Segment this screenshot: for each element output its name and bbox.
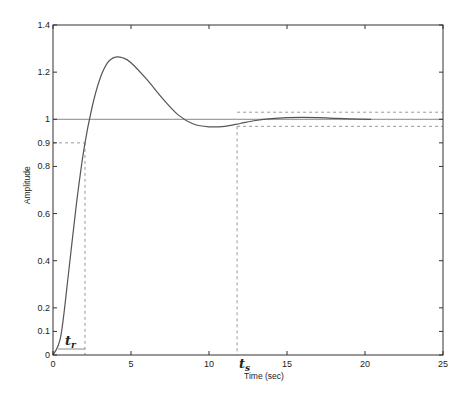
x-tick-label: 5 xyxy=(128,359,133,369)
y-tick-label: 0 xyxy=(45,350,50,360)
y-tick-label: 1.2 xyxy=(37,67,50,77)
rise-time-label: tr xyxy=(65,333,77,350)
rise-time-annotation: tr xyxy=(58,333,85,350)
plot-frame xyxy=(53,25,443,355)
reference-lines xyxy=(53,112,443,355)
y-tick-label: 0.1 xyxy=(37,326,50,336)
y-tick-label: 1 xyxy=(45,114,50,124)
step-response-chart: 051015202500.10.20.40.60.80.911.21.4 Tim… xyxy=(0,0,470,397)
y-tick-label: 0.8 xyxy=(37,161,50,171)
step-response-curve xyxy=(53,57,371,355)
y-tick-label: 0.4 xyxy=(37,256,50,266)
y-tick-label: 0.2 xyxy=(37,303,50,313)
y-tick-label: 1.4 xyxy=(37,20,50,30)
x-tick-label: 10 xyxy=(204,359,214,369)
x-tick-label: 20 xyxy=(360,359,370,369)
y-axis-label: Amplitude xyxy=(22,166,32,204)
y-tick-label: 0.6 xyxy=(37,209,50,219)
x-tick-label: 15 xyxy=(282,359,292,369)
x-tick-label: 0 xyxy=(50,359,55,369)
settling-time-label: ts xyxy=(239,356,250,373)
x-tick-label: 25 xyxy=(438,359,448,369)
y-tick-label: 0.9 xyxy=(37,138,50,148)
axis-ticks: 051015202500.10.20.40.60.80.911.21.4 xyxy=(37,20,448,369)
